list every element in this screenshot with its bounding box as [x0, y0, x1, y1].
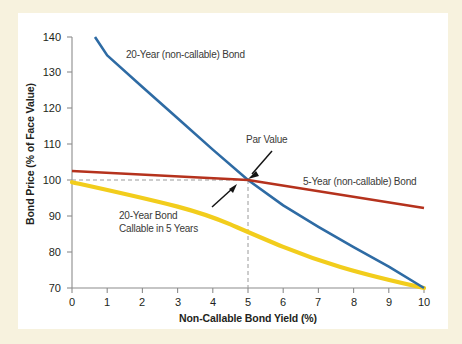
annotation-par-value: Par Value: [246, 133, 287, 146]
x-tick-label-8: 8: [344, 296, 364, 308]
y-axis-title: Bond Price (% of Face Value): [24, 54, 36, 254]
x-tick-label-2: 2: [132, 296, 152, 308]
series-20-year-non-callable: [95, 37, 424, 288]
x-tick-label-7: 7: [308, 296, 328, 308]
x-tick-label-0: 0: [62, 296, 82, 308]
annotation-5-year-non-callable: 5-Year (non-callable) Bond: [303, 175, 416, 188]
x-axis-ticks: [72, 288, 424, 293]
annotation-20-year-non-callable: 20-Year (non-callable) Bond: [126, 48, 245, 61]
par-value-arrow: [248, 151, 272, 179]
x-tick-label-4: 4: [203, 296, 223, 308]
x-tick-label-3: 3: [168, 296, 188, 308]
y-tick-label-140: 140: [31, 31, 61, 43]
x-tick-label-9: 9: [379, 296, 399, 308]
x-tick-label-6: 6: [273, 296, 293, 308]
y-tick-label-70: 70: [31, 282, 61, 294]
chart-figure: 140 130 120 110 100 90 80 70 0 1 2 3 4 5…: [0, 0, 462, 344]
callable-bond-arrow: [212, 184, 237, 207]
annotation-20-year-callable: 20-Year Bond Callable in 5 Years: [119, 209, 198, 235]
y-axis-ticks: [67, 37, 72, 288]
x-axis-title: Non-Callable Bond Yield (%): [72, 312, 424, 324]
annotation-20-year-callable-line1: 20-Year Bond: [119, 209, 198, 222]
x-tick-label-10: 10: [414, 296, 434, 308]
x-tick-label-5: 5: [238, 296, 258, 308]
annotation-20-year-callable-line2: Callable in 5 Years: [119, 222, 198, 235]
x-tick-label-1: 1: [97, 296, 117, 308]
